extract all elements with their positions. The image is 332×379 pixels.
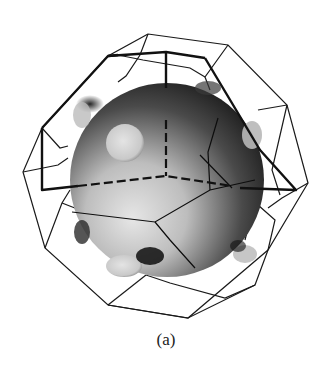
bump-top-right — [195, 81, 221, 95]
polyhedron-sphere-illustration — [0, 0, 332, 379]
figure-caption: (a) — [0, 330, 332, 350]
bump-front — [106, 124, 144, 162]
figure: (a) — [0, 0, 332, 379]
bump-left-lower — [74, 220, 90, 244]
